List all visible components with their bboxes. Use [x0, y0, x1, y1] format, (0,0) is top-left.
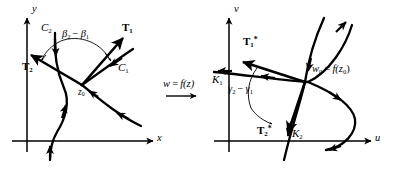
curve-k1-lower — [308, 82, 355, 150]
left-panel-angle-arc — [41, 38, 111, 61]
x-axis-label: x — [157, 133, 162, 144]
curve-c2-subscript: 2 — [48, 27, 51, 34]
point-w0-marker — [303, 80, 306, 83]
tangent-label-t1: T1 — [122, 22, 133, 35]
beta1-subscript: 1 — [86, 33, 89, 40]
z0-subscript: 0 — [82, 91, 85, 97]
tangent-vector-t2-star — [288, 82, 305, 133]
right-panel-tangent-vectors — [243, 62, 305, 133]
c1-direction-arrow-lower — [117, 113, 129, 119]
w0-arg-close: ) — [346, 63, 350, 74]
k1-direction-arrow-right — [329, 92, 341, 100]
k2-direction-arrow-upper — [336, 22, 346, 32]
k1-subscript: 1 — [219, 79, 222, 86]
tangent-label-t2: T2 — [22, 61, 33, 74]
left-panel-tangent-vectors — [31, 38, 123, 85]
v-axis-label: v — [234, 4, 239, 15]
curve-label-c2: C2 — [41, 22, 52, 35]
angle-label-beta: β2 − β1 — [62, 29, 89, 40]
u-axis-label: u — [375, 133, 380, 144]
y-axis-label: y — [32, 4, 37, 15]
curve-label-k1: K1 — [212, 74, 223, 87]
k2-subscript: 2 — [299, 133, 302, 140]
t2-subscript: 2 — [29, 66, 32, 73]
mapping-label: w = f(z) — [163, 79, 194, 90]
mapping-argument: (z) — [183, 78, 194, 89]
w0-letter: w — [312, 63, 319, 74]
curve-label-c1: C1 — [118, 62, 129, 75]
gamma1-subscript: 1 — [250, 88, 253, 95]
conformal-mapping-figure: y x C2 C1 T1 T2 β2 − β1 z0 w = f(z) v u … — [0, 0, 396, 170]
c1-direction-arrow-near-point — [89, 91, 98, 97]
w0-arg-open: (z — [335, 63, 343, 74]
t1-subscript: 1 — [129, 27, 132, 34]
t2-star-asterisk: * — [268, 124, 272, 133]
c2-direction-arrow-upper — [55, 39, 56, 56]
point-label-w0: w0 = f(z0) — [312, 64, 350, 75]
t1-star-asterisk: * — [254, 35, 258, 44]
curve-c1 — [82, 49, 141, 126]
angle-arc-gamma-lower — [251, 108, 272, 124]
angle-label-gamma: γ2 − γ1 — [228, 84, 253, 95]
tangent-label-t1-star: T1* — [243, 36, 258, 49]
curve-label-k2: K2 — [292, 128, 303, 141]
tangent-label-t2-star: T2* — [257, 125, 272, 138]
point-label-z0: z0 — [78, 88, 85, 98]
curve-c1-subscript: 1 — [125, 67, 128, 74]
mapping-w: w — [163, 78, 170, 89]
figure-vector-graphics — [0, 0, 396, 170]
angle-arc-beta — [42, 38, 110, 60]
